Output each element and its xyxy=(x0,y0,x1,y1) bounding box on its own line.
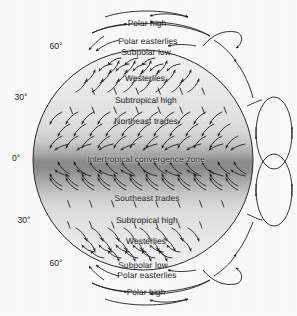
zone-label-subtropical-high: Subtropical high xyxy=(115,95,177,105)
latitude-label-1: 30° xyxy=(15,92,28,102)
zone-label-westerlies: Westerlies xyxy=(125,73,165,83)
latitude-label-0: 60° xyxy=(50,41,63,51)
zone-label-westerlies: Westerlies xyxy=(126,236,166,246)
southern-hadley-cell xyxy=(256,154,292,226)
zone-label-intertropical-convergence-zone: Intertropical convergence zone xyxy=(87,154,205,164)
zone-label-subpolar-low: Subpolar low xyxy=(121,47,171,57)
zone-label-subpolar-low: Subpolar low xyxy=(118,260,168,270)
zone-label-southeast-trades: Southeast trades xyxy=(115,193,180,203)
zone-label-subtropical-high: Subtropical high xyxy=(116,215,178,225)
latitude-label-2: 0° xyxy=(12,153,20,163)
zone-label-polar-easterlies: Polar easterlies xyxy=(118,36,177,46)
latitude-label-3: 30° xyxy=(18,215,31,225)
zone-label-northeast-trades: Northeast trades xyxy=(114,116,178,126)
zone-label-polar-high: Polar high xyxy=(128,18,167,28)
zone-label-polar-easterlies: Polar easterlies xyxy=(117,270,176,280)
latitude-label-4: 60° xyxy=(50,258,63,268)
hadley-cells xyxy=(256,97,292,226)
zone-label-polar-high: Polar high xyxy=(127,287,166,297)
northern-hadley-cell xyxy=(256,97,292,169)
global-circulation-figure: 60°30°0°30°60°Polar highPolar easterlies… xyxy=(0,0,297,316)
